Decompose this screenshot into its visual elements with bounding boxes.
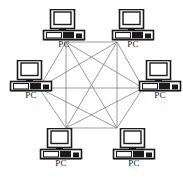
network-node-label: PC <box>38 158 84 169</box>
network-node-label: PC <box>110 39 156 50</box>
network-node-label: PC <box>8 90 54 101</box>
network-node-label: PC <box>111 158 157 169</box>
network-node-pc-top-right[interactable]: PC <box>110 9 156 51</box>
desktop-computer-icon <box>8 60 54 92</box>
network-node-pc-left[interactable]: PC <box>8 60 54 102</box>
network-node-pc-right[interactable]: PC <box>137 60 183 102</box>
network-node-pc-bottom-left[interactable]: PC <box>38 128 84 170</box>
network-topology-diagram: PC PC <box>0 0 183 183</box>
desktop-computer-icon <box>137 60 183 92</box>
desktop-computer-icon <box>41 9 87 41</box>
network-node-pc-top-left[interactable]: PC <box>41 9 87 51</box>
network-node-pc-bottom-right[interactable]: PC <box>111 128 157 170</box>
desktop-computer-icon <box>110 9 156 41</box>
network-node-label: PC <box>41 39 87 50</box>
desktop-computer-icon <box>111 128 157 160</box>
network-node-label: PC <box>137 90 183 101</box>
desktop-computer-icon <box>38 128 84 160</box>
